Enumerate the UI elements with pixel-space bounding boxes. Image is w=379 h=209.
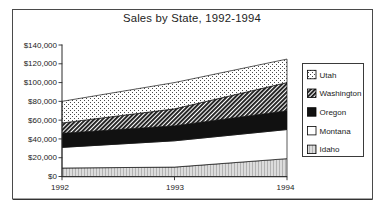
legend-label: Idaho bbox=[320, 145, 341, 154]
x-tick-label: 1994 bbox=[277, 183, 295, 192]
legend-item-montana: Montana bbox=[308, 126, 352, 135]
x-tick-label: 1992 bbox=[51, 183, 69, 192]
legend-label: Oregon bbox=[320, 108, 347, 117]
legend-item-oregon: Oregon bbox=[308, 108, 347, 117]
y-tick-label: $40,000 bbox=[28, 135, 57, 144]
y-tick-label: $100,000 bbox=[24, 78, 58, 87]
chart-object[interactable]: Sales by State, 1992-1994 $140,000 $120,… bbox=[0, 0, 379, 209]
y-tick-label: $120,000 bbox=[24, 59, 58, 68]
legend-swatch-utah bbox=[308, 70, 317, 79]
legend-label: Washington bbox=[320, 89, 362, 98]
legend-label: Utah bbox=[320, 71, 337, 80]
y-tick-label: $0 bbox=[48, 172, 57, 181]
legend-swatch-idaho bbox=[308, 145, 317, 154]
legend-swatch-washington bbox=[308, 89, 317, 98]
y-tick-label: $60,000 bbox=[28, 116, 57, 125]
legend-swatch-montana bbox=[308, 126, 317, 134]
legend-swatch-oregon bbox=[308, 108, 317, 117]
legend-item-idaho: Idaho bbox=[308, 145, 341, 154]
y-tick-label: $80,000 bbox=[28, 97, 57, 106]
chart-canvas: Sales by State, 1992-1994 $140,000 $120,… bbox=[0, 0, 379, 209]
legend-label: Montana bbox=[320, 127, 352, 136]
legend-item-utah: Utah bbox=[308, 70, 337, 79]
y-tick-label: $20,000 bbox=[28, 153, 57, 162]
legend-box: Utah Washington Oregon Montana Idaho bbox=[303, 64, 364, 157]
x-tick-label: 1993 bbox=[166, 183, 184, 192]
y-tick-label: $140,000 bbox=[24, 41, 58, 50]
legend-item-washington: Washington bbox=[308, 89, 362, 98]
chart-title: Sales by State, 1992-1994 bbox=[123, 12, 261, 24]
